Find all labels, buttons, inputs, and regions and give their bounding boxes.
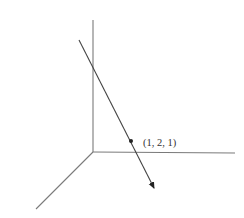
- point-marker: [129, 139, 133, 143]
- diagram-canvas: (1, 2, 1): [0, 0, 244, 218]
- point-label: (1, 2, 1): [143, 137, 177, 149]
- y-axis: [93, 152, 235, 153]
- x-axis: [36, 152, 93, 209]
- direction-line: [79, 40, 154, 188]
